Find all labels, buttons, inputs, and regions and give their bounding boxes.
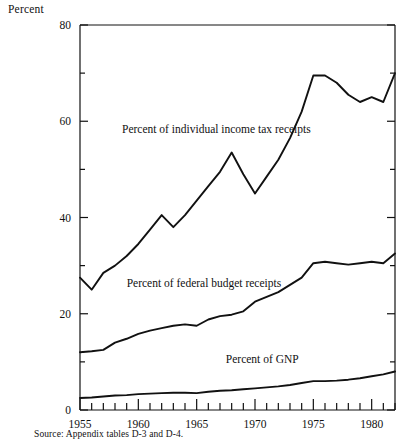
series-line-3 bbox=[80, 372, 395, 398]
series-annotation-3: Percent of GNP bbox=[226, 353, 299, 365]
x-axis-tick-label: 1970 bbox=[244, 418, 267, 430]
y-axis-tick-label: 60 bbox=[60, 115, 72, 127]
y-axis-tick-label: 0 bbox=[65, 404, 71, 416]
source-note: Source: Appendix tables D-3 and D-4. bbox=[34, 429, 183, 439]
y-axis-tick-label: 40 bbox=[60, 212, 72, 224]
series-line-2 bbox=[80, 254, 395, 353]
series-annotation-2: Percent of federal budget receipts bbox=[127, 277, 282, 290]
series-label-group: Percent of individual income tax receipt… bbox=[122, 123, 311, 365]
y-axis-tick-label: 20 bbox=[60, 308, 72, 320]
data-series-group bbox=[80, 73, 395, 398]
chart-container: Percent 020406080 1955196019651970197519… bbox=[0, 0, 407, 447]
line-chart-plot: 020406080 195519601965197019751980 Perce… bbox=[0, 0, 407, 447]
x-axis-tick-group: 195519601965197019751980 bbox=[69, 399, 396, 430]
x-axis-tick-label: 1975 bbox=[302, 418, 325, 430]
y-axis-tick-label: 80 bbox=[60, 19, 72, 31]
series-line-1 bbox=[80, 73, 395, 290]
series-annotation-1: Percent of individual income tax receipt… bbox=[122, 123, 311, 136]
x-axis-tick-label: 1965 bbox=[185, 418, 208, 430]
x-axis-tick-label: 1980 bbox=[360, 418, 383, 430]
